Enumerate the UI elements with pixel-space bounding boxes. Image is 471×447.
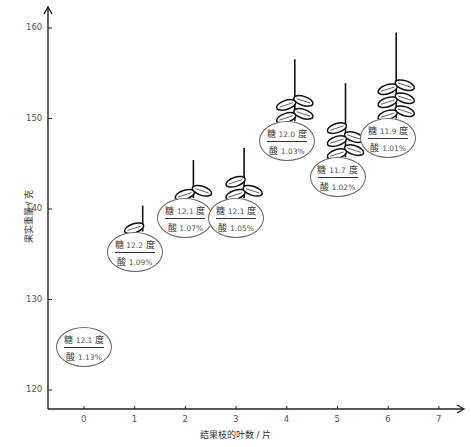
leaf-branch	[377, 32, 416, 122]
divider	[318, 177, 358, 178]
x-tick-label: 2	[182, 414, 187, 424]
x-tick-label: 7	[436, 414, 441, 424]
sugar-value: 糖 11.9 度	[361, 124, 415, 137]
y-tick-label: 150	[26, 113, 42, 123]
leaf-branch	[275, 59, 314, 125]
divider	[165, 218, 205, 219]
data-point-bubble: 糖 12.0 度酸 1.03%	[259, 121, 315, 161]
divider	[368, 138, 408, 139]
data-point-bubble: 糖 11.7 度酸 1.02%	[310, 157, 366, 197]
divider	[267, 141, 307, 142]
acid-value: 酸 1.02%	[311, 180, 365, 193]
x-tick-label: 3	[233, 414, 238, 424]
y-tick-label: 160	[26, 22, 42, 32]
data-point-bubble: 糖 11.9 度酸 1.01%	[360, 118, 416, 158]
x-tick-label: 4	[284, 414, 289, 424]
acid-value: 酸 1.03%	[260, 144, 314, 157]
data-point-bubble: 糖 12.1 度酸 1.13%	[56, 327, 112, 367]
x-tick-label: 0	[81, 414, 86, 424]
data-point-bubble: 糖 12.1 度酸 1.07%	[157, 198, 213, 238]
x-tick-label: 6	[385, 414, 390, 424]
data-point-bubble: 糖 12.2 度酸 1.09%	[107, 232, 163, 272]
leaf-branch	[174, 160, 213, 202]
x-tick-label: 5	[335, 414, 340, 424]
sugar-value: 糖 12.1 度	[57, 333, 111, 346]
divider	[64, 347, 104, 348]
data-point-bubble: 糖 12.1 度酸 1.05%	[208, 198, 264, 238]
x-tick-label: 1	[132, 414, 137, 424]
divider	[216, 218, 256, 219]
acid-value: 酸 1.01%	[361, 141, 415, 154]
sugar-value: 糖 11.7 度	[311, 163, 365, 176]
divider	[115, 252, 155, 253]
sugar-value: 糖 12.2 度	[108, 238, 162, 251]
sugar-value: 糖 12.1 度	[209, 204, 263, 217]
acid-value: 酸 1.09%	[108, 255, 162, 268]
acid-value: 酸 1.13%	[57, 350, 111, 363]
y-tick-label: 130	[26, 294, 42, 304]
sugar-value: 糖 12.1 度	[158, 204, 212, 217]
y-tick-label: 120	[26, 384, 42, 394]
leaf-branch	[326, 83, 365, 161]
y-axis-title: 果实重量 / 克	[22, 190, 35, 244]
acid-value: 酸 1.05%	[209, 221, 263, 234]
acid-value: 酸 1.07%	[158, 221, 212, 234]
x-axis-title: 结果枝的叶数 / 片	[0, 428, 471, 441]
leaf-branch	[225, 148, 264, 202]
sugar-value: 糖 12.0 度	[260, 127, 314, 140]
